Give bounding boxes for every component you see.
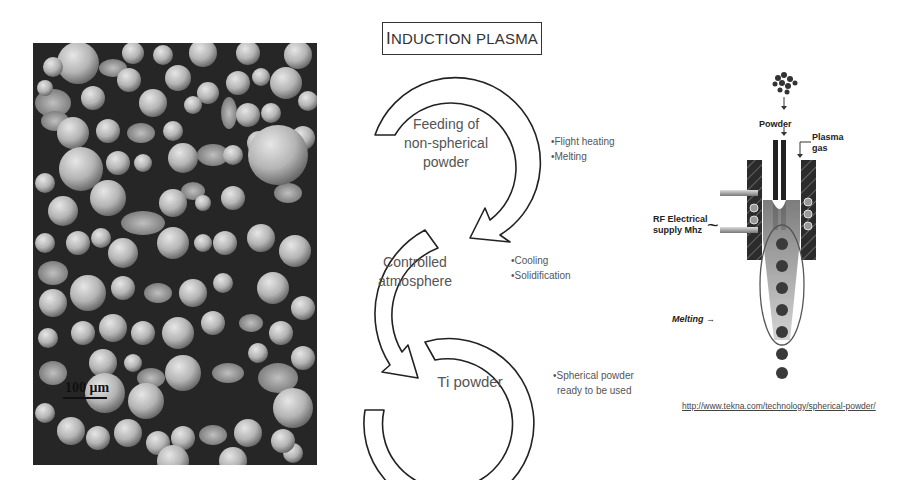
scale-bar-label: 100 μm (65, 380, 109, 396)
source-link[interactable]: http://www.tekna.com/technology/spherica… (682, 401, 876, 411)
stage-ti-powder-text: Ti powder (425, 372, 515, 391)
stage-atmosphere-bullets: •Cooling •Solidification (511, 253, 571, 283)
powder-cluster-icon (773, 72, 798, 95)
powder-label: Powder (759, 119, 792, 130)
powder-particles-graphic (33, 43, 317, 465)
stage-ti-powder-bullets: •Spherical powder ready to be used (553, 368, 634, 398)
scale-bar (63, 397, 107, 399)
sine-wave-icon: ~ (707, 214, 719, 237)
sem-micrograph-image (33, 43, 317, 465)
rf-supply-label: RF Electrical supply Mhz (653, 214, 708, 236)
plasma-gas-label: Plasma gas (812, 132, 844, 154)
diagram-title: INDUCTION PLASMA (382, 22, 542, 55)
plasma-torch-schematic (720, 70, 860, 390)
stage-atmosphere-text: Controlled atmosphere (360, 253, 470, 291)
stage-feeding-bullets: •Flight heating •Melting (551, 134, 615, 164)
melting-label: Melting → (672, 314, 715, 325)
stage-feeding-text: Feeding of non-spherical powder (386, 115, 506, 172)
